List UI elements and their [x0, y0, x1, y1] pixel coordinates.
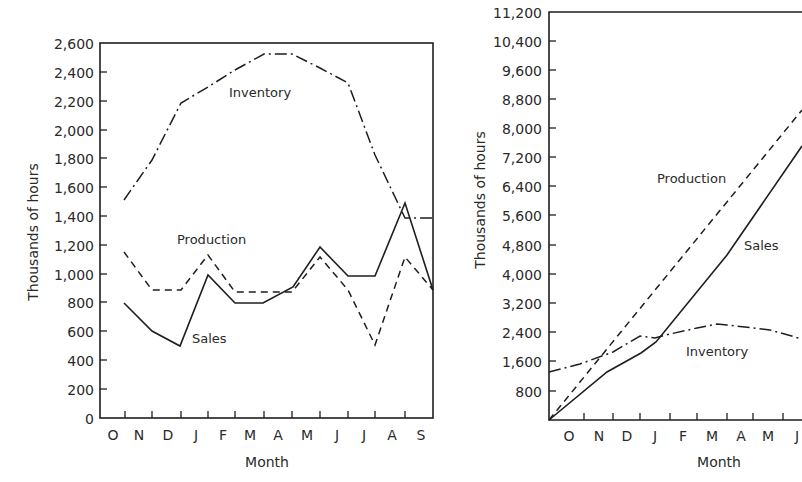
left-y-tick-labels: 2,600 2,400 2,200 2,000 1,800 1,600 1,40… [54, 36, 94, 427]
left-month-label: F [219, 427, 227, 443]
right-production-label: Production [657, 171, 726, 186]
right-chart: 11,200 10,400 9,600 8,800 8,000 7,200 6,… [472, 5, 802, 470]
right-month-label: F [679, 428, 687, 444]
right-sales-label: Sales [744, 238, 779, 253]
right-x-ticks [584, 413, 783, 420]
right-inventory-line [549, 324, 802, 372]
right-y-ticks [549, 41, 556, 391]
left-ytick-label: 1,600 [54, 180, 94, 196]
right-month-label: M [706, 428, 718, 444]
right-month-label: D [622, 428, 633, 444]
right-y-axis-title: Thousands of hours [472, 131, 488, 270]
right-ytick-label: 7,200 [502, 150, 542, 166]
left-chart: 2,600 2,400 2,200 2,000 1,800 1,600 1,40… [25, 36, 433, 470]
left-month-label: D [163, 427, 174, 443]
right-month-label: N [594, 428, 604, 444]
left-month-label: A [273, 427, 283, 443]
left-inventory-label: Inventory [229, 85, 291, 100]
left-month-label: N [134, 427, 144, 443]
left-ytick-label: 1,200 [54, 238, 94, 254]
right-ytick-label: 10,400 [493, 34, 542, 50]
right-inventory-label: Inventory [686, 344, 748, 359]
left-sales-label: Sales [192, 331, 227, 346]
left-month-label: A [387, 427, 397, 443]
left-y-ticks [100, 72, 107, 389]
right-ytick-label: 800 [515, 384, 542, 400]
right-ytick-label: 11,200 [493, 5, 542, 21]
left-sales-line [124, 203, 433, 346]
left-month-label: J [193, 427, 198, 443]
right-ytick-label: 2,400 [502, 325, 542, 341]
left-ytick-label: 0 [85, 411, 94, 427]
right-y-tick-labels: 11,200 10,400 9,600 8,800 8,000 7,200 6,… [493, 5, 542, 400]
right-production-line [549, 110, 802, 420]
left-x-axis-title: Month [245, 454, 289, 470]
left-x-ticks [125, 411, 405, 418]
left-ytick-label: 1,000 [54, 267, 94, 283]
right-month-label: O [563, 428, 574, 444]
charts-canvas: 2,600 2,400 2,200 2,000 1,800 1,600 1,40… [0, 0, 802, 482]
right-month-label: J [652, 428, 657, 444]
left-ytick-label: 1,800 [54, 151, 94, 167]
left-month-label: J [334, 427, 339, 443]
right-ytick-label: 5,600 [502, 208, 542, 224]
left-ytick-label: 2,400 [54, 65, 94, 81]
right-ytick-label: 1,600 [502, 354, 542, 370]
left-production-line [124, 252, 433, 345]
left-production-label: Production [177, 232, 246, 247]
left-month-label: S [417, 427, 426, 443]
left-ytick-label: 400 [67, 353, 94, 369]
right-sales-line [549, 146, 802, 420]
left-month-label: J [361, 427, 366, 443]
right-month-label: A [736, 428, 746, 444]
left-x-tick-labels: O N D J F M A M J J A S [107, 427, 425, 443]
left-ytick-label: 1,400 [54, 209, 94, 225]
right-ytick-label: 6,400 [502, 179, 542, 195]
right-ytick-label: 3,200 [502, 296, 542, 312]
right-ytick-label: 4,000 [502, 267, 542, 283]
right-x-axis-title: Month [697, 454, 741, 470]
right-ytick-label: 4,800 [502, 238, 542, 254]
left-ytick-label: 800 [67, 295, 94, 311]
left-month-label: O [107, 427, 118, 443]
left-inventory-line [124, 54, 433, 218]
left-y-axis-title: Thousands of hours [25, 163, 41, 302]
left-ytick-label: 2,200 [54, 94, 94, 110]
left-month-label: M [244, 427, 256, 443]
right-plot-frame [549, 12, 802, 420]
left-ytick-label: 600 [67, 324, 94, 340]
left-ytick-label: 2,000 [54, 123, 94, 139]
right-ytick-label: 9,600 [502, 63, 542, 79]
left-ytick-label: 2,600 [54, 36, 94, 52]
right-ytick-label: 8,000 [502, 121, 542, 137]
left-ytick-label: 200 [67, 382, 94, 398]
left-month-label: M [301, 427, 313, 443]
right-month-label: M [762, 428, 774, 444]
right-month-label: J [794, 428, 799, 444]
right-ytick-label: 8,800 [502, 92, 542, 108]
right-x-tick-labels: O N D J F M A M J [563, 428, 799, 444]
